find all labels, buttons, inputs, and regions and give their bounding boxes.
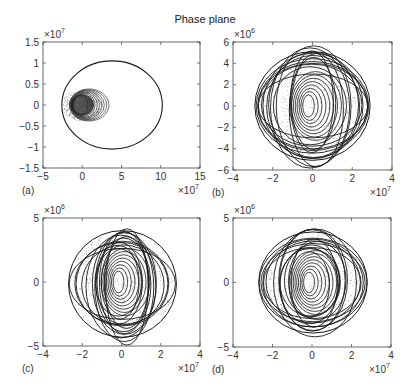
x-tick-label: 15 [194, 171, 206, 182]
y-tick-label: 0 [223, 101, 229, 112]
axis-multiplier: ×107 [44, 27, 65, 40]
plot-panel-a: −5051015−1.5−1−0.500.511.5×107×107(a) [19, 27, 206, 196]
x-tick-label: −4 [227, 173, 239, 184]
axis-multiplier: ×107 [178, 361, 199, 374]
panel-label: (b) [212, 187, 224, 198]
axis-multiplier: ×107 [178, 183, 199, 196]
plot-data [259, 229, 368, 337]
panel-label: (d) [212, 364, 224, 375]
y-tick-label: −0.5 [19, 121, 39, 132]
axis-multiplier: ×106 [234, 203, 255, 216]
y-tick-label: 5 [33, 213, 39, 224]
y-tick-label: −2 [218, 122, 230, 133]
x-tick-label: 5 [119, 171, 125, 182]
plot-panel-d: −4−2024−505×106×107(d) [212, 203, 394, 375]
y-tick-label: 0 [33, 277, 39, 288]
plot-panel-b: −4−2024−6−4−20246×106×107(b) [212, 27, 395, 198]
y-tick-label: 4 [223, 58, 229, 69]
x-tick-label: 0 [79, 171, 85, 182]
x-tick-label: −2 [267, 350, 279, 361]
x-tick-label: 10 [155, 171, 167, 182]
x-tick-label: 4 [389, 173, 395, 184]
plot-panel-c: −4−2024−505×106×107(c) [22, 203, 203, 374]
x-tick-label: −5 [37, 171, 49, 182]
y-tick-label: 1 [33, 58, 39, 69]
x-tick-label: 0 [310, 173, 316, 184]
figure-canvas: −5051015−1.5−1−0.500.511.5×107×107(a)−4−… [0, 0, 410, 391]
panel-label: (a) [22, 185, 34, 196]
y-tick-label: 0 [33, 100, 39, 111]
x-tick-label: 2 [349, 350, 355, 361]
x-tick-label: −4 [227, 350, 239, 361]
plot-data [255, 46, 370, 168]
x-tick-label: 2 [158, 349, 164, 360]
y-tick-label: −6 [218, 165, 230, 176]
x-tick-label: 2 [349, 173, 355, 184]
axes-box [43, 42, 200, 168]
y-tick-label: 0.5 [25, 79, 39, 90]
y-tick-label: −4 [218, 143, 230, 154]
y-tick-label: 5 [223, 213, 229, 224]
x-tick-label: 4 [388, 350, 394, 361]
y-tick-label: −1 [28, 142, 40, 153]
x-tick-label: −2 [267, 173, 279, 184]
axis-multiplier: ×106 [234, 27, 255, 40]
y-tick-label: 1.5 [25, 37, 39, 48]
y-tick-label: −5 [28, 341, 40, 352]
x-tick-label: −2 [77, 349, 89, 360]
x-tick-label: 0 [119, 349, 125, 360]
x-tick-label: 0 [309, 350, 315, 361]
y-tick-label: −5 [218, 342, 230, 353]
x-tick-label: 4 [197, 349, 203, 360]
axis-multiplier: ×107 [369, 362, 390, 375]
y-tick-label: −1.5 [19, 163, 39, 174]
axis-multiplier: ×107 [370, 185, 391, 198]
panel-label: (c) [22, 363, 34, 374]
axis-multiplier: ×106 [44, 203, 65, 216]
plot-data [62, 61, 162, 149]
y-tick-label: 0 [223, 277, 229, 288]
y-tick-label: 2 [223, 79, 229, 90]
plot-data [69, 229, 177, 345]
x-tick-label: −4 [37, 349, 49, 360]
y-tick-label: 6 [223, 37, 229, 48]
